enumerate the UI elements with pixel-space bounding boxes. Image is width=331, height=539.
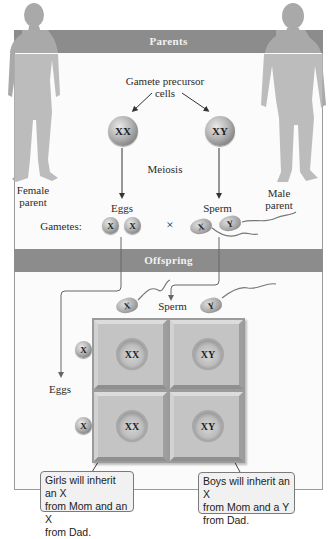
callout-girls: Girls will inherit an X from Mom and an … bbox=[40, 471, 134, 512]
callout-girls-line3: from Dad. bbox=[45, 526, 129, 539]
male-precursor-cell: XY bbox=[205, 116, 235, 146]
egg-gamete-2: X bbox=[124, 217, 141, 234]
offspring-sperm-y-tail bbox=[222, 284, 276, 298]
offspring-genotype: XY bbox=[194, 412, 222, 440]
female-parent-label-line1: Female bbox=[10, 184, 56, 196]
punnett-cell-xy-top: XY bbox=[170, 320, 243, 389]
punnett-cell-xx-bottom: XX bbox=[94, 392, 167, 461]
offspring-sperm-x-tail bbox=[138, 280, 170, 300]
punnett-square: XX XY XX XY bbox=[92, 318, 245, 463]
offspring-sperm-label: Sperm bbox=[150, 300, 195, 312]
male-parent-label-line2: parent bbox=[254, 199, 304, 211]
female-parent-label-line2: parent bbox=[10, 196, 56, 208]
punnett-cell-xy-bottom: XY bbox=[170, 392, 243, 461]
callout-boys: Boys will inherit an X from Mom and a Y … bbox=[198, 472, 295, 514]
offspring-egg-2: X bbox=[75, 417, 92, 434]
punnett-cell-xx-top: XX bbox=[94, 320, 167, 389]
callout-boys-line2: from Mom and a Y bbox=[203, 501, 290, 514]
gametes-label: Gametes: bbox=[36, 220, 86, 232]
offspring-genotype: XX bbox=[118, 340, 146, 368]
cross-symbol: × bbox=[160, 219, 180, 231]
precursor-label-line1: Gamete precursor bbox=[115, 75, 215, 87]
offspring-eggs-label: Eggs bbox=[40, 383, 80, 395]
eggs-label: Eggs bbox=[102, 202, 142, 214]
callout-girls-line2: from Mom and an X bbox=[45, 500, 129, 526]
meiosis-label: Meiosis bbox=[140, 163, 190, 175]
sperm-y-tail bbox=[242, 212, 296, 222]
callout-boys-line1: Boys will inherit an X bbox=[203, 475, 290, 501]
sperm-label: Sperm bbox=[195, 202, 240, 214]
offspring-egg-1: X bbox=[75, 341, 92, 358]
callout-boys-line3: from Dad. bbox=[203, 514, 290, 527]
offspring-genotype: XX bbox=[118, 412, 146, 440]
offspring-genotype: XY bbox=[194, 340, 222, 368]
egg-gamete-1: X bbox=[102, 217, 119, 234]
callout-girls-line1: Girls will inherit an X bbox=[45, 474, 129, 500]
female-precursor-cell: XX bbox=[108, 116, 138, 146]
precursor-label-line2: cells bbox=[115, 87, 215, 99]
sperm-path-line bbox=[171, 237, 219, 298]
male-parent-label-line1: Male bbox=[254, 187, 304, 199]
